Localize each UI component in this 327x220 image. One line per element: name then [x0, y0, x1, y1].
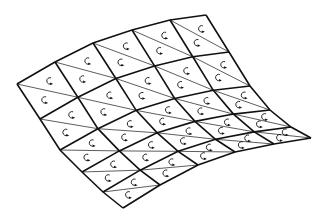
curved-arrow-icon: [256, 121, 262, 128]
triangle-diagonal: [215, 139, 274, 144]
curved-arrow-icon: [206, 144, 212, 151]
curved-arrow-icon: [245, 135, 251, 142]
curved-arrow-icon: [163, 170, 169, 177]
curved-arrow-icon: [123, 43, 129, 50]
grid-col-edge: [170, 20, 274, 144]
curved-arrow-icon: [107, 92, 113, 99]
curved-arrow-icon: [160, 118, 166, 125]
triangle-diagonal: [60, 150, 119, 151]
triangle-diagonal: [178, 151, 235, 152]
curved-arrow-icon: [221, 61, 227, 68]
curved-arrow-icon: [89, 140, 95, 147]
curved-arrow-icon: [169, 159, 175, 166]
curved-arrow-icon: [63, 129, 69, 136]
curved-arrow-icon: [201, 153, 207, 160]
curved-arrow-icon: [178, 81, 184, 88]
curved-arrow-icon: [85, 58, 91, 65]
curved-arrow-icon: [122, 134, 128, 141]
triangle-diagonal: [157, 133, 215, 139]
curved-arrow-icon: [165, 107, 171, 114]
curved-arrow-icon: [199, 26, 205, 33]
curved-arrow-icon: [145, 77, 151, 84]
curved-arrow-icon: [105, 175, 111, 182]
grid-row-edge: [60, 86, 250, 150]
curved-arrow-icon: [126, 192, 132, 199]
grid-col-edge: [132, 30, 235, 152]
curved-arrow-icon: [180, 138, 186, 145]
curved-arrow-icon: [224, 119, 230, 126]
curved-arrow-icon: [262, 114, 268, 121]
triangle-diagonal: [40, 119, 98, 129]
triangle-diagonal: [98, 129, 157, 133]
curved-arrow-icon: [127, 121, 133, 128]
curved-arrow-icon: [216, 74, 222, 81]
curved-arrow-icon: [162, 32, 168, 39]
curved-arrow-icon: [69, 112, 75, 119]
curved-arrow-icon: [157, 47, 163, 54]
curved-arrow-icon: [139, 92, 145, 99]
curved-arrow-icon: [184, 68, 190, 75]
curved-arrow-icon: [101, 109, 107, 116]
triangle-diagonal: [78, 97, 136, 110]
curved-arrow-icon: [241, 92, 247, 99]
curved-arrow-icon: [186, 128, 192, 135]
curved-arrow-icon: [47, 78, 53, 85]
grid-row-edge: [123, 138, 311, 208]
curved-arrow-icon: [42, 97, 48, 104]
curved-arrow-icon: [118, 59, 124, 66]
curved-arrow-icon: [204, 97, 210, 104]
triangle-diagonal: [170, 20, 229, 52]
curved-arrow-icon: [236, 101, 242, 108]
curved-arrow-icon: [238, 142, 244, 149]
curved-arrow-icon: [143, 154, 149, 161]
curved-arrow-icon: [194, 39, 200, 46]
triangle-diagonal: [82, 170, 140, 172]
curved-arrow-icon: [84, 154, 90, 161]
curved-arrow-icon: [277, 134, 283, 141]
curved-arrow-icon: [198, 108, 204, 115]
mesh-diagram: [0, 0, 327, 220]
curved-arrow-icon: [131, 179, 137, 186]
mesh-surface: [0, 0, 327, 220]
curved-arrow-icon: [80, 76, 86, 83]
curved-arrow-icon: [111, 161, 117, 168]
curved-arrow-icon: [218, 127, 224, 134]
triangle-diagonal: [17, 84, 78, 97]
curved-arrow-icon: [148, 142, 154, 149]
